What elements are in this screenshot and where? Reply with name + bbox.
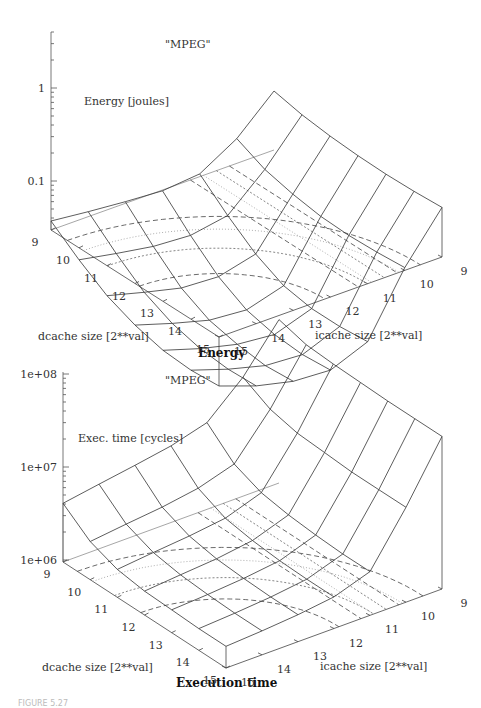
x-axis-label: dcache size [2**val] xyxy=(38,330,149,343)
chart-title: Execution time xyxy=(176,676,278,690)
base-contour xyxy=(236,499,399,605)
icache-tick-label: 15 xyxy=(241,676,255,689)
y-axis-label: icache size [2**val] xyxy=(320,660,427,673)
dcache-tick-label: 14 xyxy=(176,656,190,669)
z-tick-label: 1e+08 xyxy=(20,368,57,381)
dcache-tick-label: 12 xyxy=(112,290,126,303)
base-front-edges xyxy=(63,562,442,668)
icache-tick xyxy=(402,600,406,602)
icache-tick xyxy=(438,587,442,589)
dcache-tick-label: 10 xyxy=(67,586,81,599)
dcache-tick xyxy=(172,631,176,633)
base-contour xyxy=(216,171,384,278)
base-contour xyxy=(107,248,367,284)
base-contour xyxy=(77,547,423,596)
icache-tick-label: 10 xyxy=(421,610,435,623)
icache-tick-label: 9 xyxy=(461,597,468,610)
base-contour xyxy=(211,508,374,614)
icache-tick xyxy=(289,308,293,310)
base-contour xyxy=(115,578,374,614)
icache-tick-label: 9 xyxy=(461,265,468,278)
exec-time-chart: "MPEG" Exec. time [cycles] dcache size [… xyxy=(20,320,467,690)
surface-line-dcache-10 xyxy=(79,115,302,260)
dcache-tick-label: 10 xyxy=(56,254,70,267)
z-tick-label: 1e+07 xyxy=(20,461,57,474)
icache-tick xyxy=(258,653,262,655)
icache-tick-label: 10 xyxy=(420,278,434,291)
surface-line-dcache-13 xyxy=(163,174,386,350)
surface-line-dcache-12 xyxy=(145,383,361,592)
z-tick-label: 1e+06 xyxy=(20,554,57,567)
z-axis-label: Exec. time [cycles] xyxy=(78,432,183,445)
z-tick-label: 1 xyxy=(38,82,45,95)
surface-line-dcache-12 xyxy=(135,156,358,325)
dcache-tick-label: 12 xyxy=(122,621,136,634)
icache-tick xyxy=(330,627,334,629)
dcache-tick xyxy=(79,246,83,248)
base-contour xyxy=(139,274,325,300)
surface-line-dcache-15 xyxy=(226,436,442,646)
surface-line-icache-15 xyxy=(63,503,226,646)
surface-line-dcache-14 xyxy=(199,419,415,629)
dcache-tick xyxy=(117,595,121,597)
icache-tick-label: 14 xyxy=(277,663,291,676)
icache-tick-label: 12 xyxy=(349,637,363,650)
icache-tick-label: 13 xyxy=(308,318,322,331)
base-contour xyxy=(203,175,371,282)
surface-line-dcache-11 xyxy=(117,364,333,569)
base-contour xyxy=(223,503,386,609)
x-axis-label: dcache size [2**val] xyxy=(42,661,153,674)
icache-tick-label: 13 xyxy=(313,650,327,663)
icache-tick xyxy=(366,613,370,615)
z-tick-label: 0.1 xyxy=(28,175,46,188)
base-contour xyxy=(67,216,420,264)
dcache-tick-label: 13 xyxy=(149,639,163,652)
dcache-tick xyxy=(163,299,167,301)
surface-line-icache-14 xyxy=(99,484,262,631)
dcache-tick-label: 9 xyxy=(32,236,39,249)
z-axis-label: Energy [joules] xyxy=(84,95,169,108)
dcache-tick-label: 11 xyxy=(84,272,98,285)
surface-line-dcache-9 xyxy=(51,91,274,221)
icache-tick-label: 11 xyxy=(385,623,399,636)
surface-line-dcache-13 xyxy=(172,401,388,610)
dcache-tick-label: 11 xyxy=(94,603,108,616)
icache-tick xyxy=(438,255,442,257)
dcache-tick-label: 13 xyxy=(140,307,154,320)
dcache-tick xyxy=(191,317,195,319)
icache-tick xyxy=(252,322,256,324)
icache-tick xyxy=(327,295,331,297)
dcache-tick-label: 9 xyxy=(44,568,51,581)
surface-line-icache-11 xyxy=(200,174,368,342)
base-contour xyxy=(141,599,339,627)
surface-line-dcache-11 xyxy=(107,136,330,296)
figure-caption: FIGURE 5.27 xyxy=(18,699,68,708)
energy-chart: "MPEG" Energy [joules] dcache size [2**v… xyxy=(28,32,468,386)
dcache-tick xyxy=(145,613,149,615)
surface-line-dcache-14 xyxy=(191,191,414,370)
dcache-tick-label: 14 xyxy=(168,325,182,338)
surface-line-icache-13 xyxy=(135,465,298,614)
chart-key: "MPEG" xyxy=(165,374,211,387)
icache-tick xyxy=(294,640,298,642)
base-back-edge xyxy=(51,150,274,230)
chart-key: "MPEG" xyxy=(165,38,211,51)
dcache-tick xyxy=(199,648,203,650)
dcache-tick xyxy=(90,578,94,580)
surface-line-icache-9 xyxy=(274,91,442,207)
dcache-tick-label: 15 xyxy=(203,674,217,687)
figure: "MPEG" Energy [joules] dcache size [2**v… xyxy=(0,0,481,708)
